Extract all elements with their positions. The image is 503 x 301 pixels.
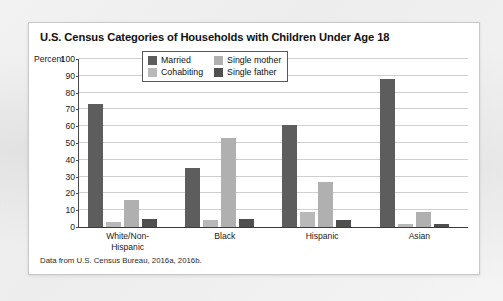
bar-group: Hispanic xyxy=(274,59,371,227)
y-tick-label: 60 xyxy=(65,122,75,131)
x-tick-label-line: Black xyxy=(176,231,273,242)
x-tick-label-line: Asian xyxy=(371,231,468,242)
legend-swatch-married-icon xyxy=(148,56,157,65)
legend-item-single-father: Single father xyxy=(214,67,281,78)
chart-legend: Married Single mother Cohabiting Single … xyxy=(142,51,288,82)
bar xyxy=(380,79,395,227)
bar xyxy=(282,125,297,227)
y-tick-label: 10 xyxy=(65,206,75,215)
legend-swatch-cohabiting-icon xyxy=(148,68,157,77)
bar xyxy=(106,222,121,227)
bar xyxy=(142,219,157,227)
bar-group: Asian xyxy=(371,59,468,227)
x-tick-label: Black xyxy=(176,231,273,242)
y-axis-title: Percent xyxy=(34,54,64,64)
screenshot-page: U.S. Census Categories of Households wit… xyxy=(0,0,503,301)
legend-label-single-father: Single father xyxy=(227,67,276,78)
bar xyxy=(239,219,254,227)
figure-card: U.S. Census Categories of Households wit… xyxy=(28,22,480,275)
legend-label-single-mother: Single mother xyxy=(227,55,281,66)
y-tick-mark xyxy=(76,227,79,228)
bar xyxy=(203,220,218,227)
legend-label-married: Married xyxy=(161,55,191,66)
bar-group: Black xyxy=(176,59,273,227)
legend-swatch-single-mother-icon xyxy=(214,56,223,65)
bars xyxy=(274,59,371,227)
source-note: Data from U.S. Census Bureau, 2016a, 201… xyxy=(40,256,202,265)
y-tick-label: 80 xyxy=(65,88,75,97)
bar xyxy=(398,224,413,227)
x-tick-label: White/Non-Hispanic xyxy=(79,231,176,252)
y-tick-label: 40 xyxy=(65,156,75,165)
y-tick-label: 20 xyxy=(65,189,75,198)
legend-label-cohabiting: Cohabiting xyxy=(161,67,203,78)
bar xyxy=(88,104,103,227)
y-tick-label: 70 xyxy=(65,105,75,114)
y-tick-label: 100 xyxy=(61,55,75,64)
legend-swatch-single-father-icon xyxy=(214,68,223,77)
x-tick-label-line: White/Non- xyxy=(79,231,176,242)
x-tick-label: Hispanic xyxy=(274,231,371,242)
x-tick-label: Asian xyxy=(371,231,468,242)
legend-item-cohabiting: Cohabiting xyxy=(148,67,203,78)
y-tick-label: 0 xyxy=(70,223,75,232)
bar-groups: White/Non-HispanicBlackHispanicAsian xyxy=(79,59,468,227)
figure-title: U.S. Census Categories of Households wit… xyxy=(40,31,389,43)
y-tick-label: 90 xyxy=(65,72,75,81)
plot-area: 0102030405060708090100 White/Non-Hispani… xyxy=(78,59,468,228)
x-tick-label-line: Hispanic xyxy=(79,242,176,253)
y-tick-label: 50 xyxy=(65,139,75,148)
legend-item-single-mother: Single mother xyxy=(214,55,281,66)
bar xyxy=(318,182,333,227)
bar xyxy=(416,212,431,227)
y-tick-label: 30 xyxy=(65,172,75,181)
bar xyxy=(434,224,449,227)
bar xyxy=(221,138,236,227)
bar xyxy=(185,168,200,227)
bar xyxy=(124,200,139,227)
bars xyxy=(79,59,176,227)
bars xyxy=(371,59,468,227)
legend-item-married: Married xyxy=(148,55,203,66)
x-tick-label-line: Hispanic xyxy=(274,231,371,242)
bar xyxy=(336,220,351,227)
bars xyxy=(176,59,273,227)
bar-group: White/Non-Hispanic xyxy=(79,59,176,227)
plot-wrapper: 0102030405060708090100 White/Non-Hispani… xyxy=(78,59,468,228)
bar xyxy=(300,212,315,227)
